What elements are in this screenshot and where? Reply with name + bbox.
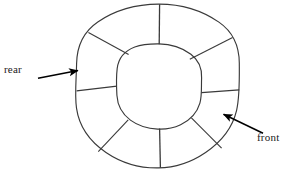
rear-label: rear xyxy=(4,63,22,75)
front-label: front xyxy=(257,131,279,143)
spoke-upper-right xyxy=(190,37,233,59)
spoke-lower-right xyxy=(191,118,221,148)
annulus-spokes xyxy=(77,4,240,168)
diagram-canvas: rear front xyxy=(0,0,290,170)
spoke-upper-left xyxy=(88,33,128,55)
annulus-diagram-svg xyxy=(0,0,290,170)
rear-arrow xyxy=(38,71,78,79)
spoke-lower-left xyxy=(98,120,128,152)
spoke-right xyxy=(202,90,240,93)
annulus-outer-ring xyxy=(76,4,240,168)
annulus-inner-ring xyxy=(116,44,201,129)
spoke-left xyxy=(77,86,117,91)
spoke-bottom xyxy=(160,128,161,167)
